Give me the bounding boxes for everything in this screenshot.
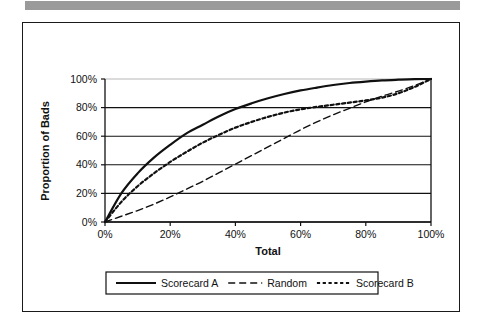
line-chart: 0%20%40%60%80%100% 0%20%40%60%80%100% To…: [23, 23, 458, 310]
x-tick-label: 80%: [355, 228, 376, 240]
y-tick-label: 40%: [76, 158, 97, 170]
x-tick-label: 0%: [97, 228, 112, 240]
x-tick-label: 40%: [225, 228, 246, 240]
y-tick-label: 100%: [70, 73, 97, 85]
x-tick-label: 20%: [160, 228, 181, 240]
y-axis-title: Proportion of Bads: [39, 101, 51, 201]
screenshot-page: 0%20%40%60%80%100% 0%20%40%60%80%100% To…: [0, 0, 483, 330]
y-tick-label: 0%: [82, 216, 97, 228]
legend-label: Scorecard A: [161, 277, 218, 289]
x-tick-label: 60%: [290, 228, 311, 240]
plot-background: [105, 79, 431, 222]
y-axis-tick-labels: 0%20%40%60%80%100%: [70, 73, 97, 228]
legend-label: Random: [267, 277, 307, 289]
legend-label: Scorecard B: [356, 277, 414, 289]
x-tick-label: 100%: [418, 228, 445, 240]
y-tick-label: 60%: [76, 130, 97, 142]
chart-figure-frame: 0%20%40%60%80%100% 0%20%40%60%80%100% To…: [22, 22, 460, 312]
chart-legend: Scorecard ARandomScorecard B: [106, 272, 414, 294]
top-gray-band: [25, 1, 460, 10]
y-tick-label: 80%: [76, 101, 97, 113]
x-axis-tick-labels: 0%20%40%60%80%100%: [97, 228, 444, 240]
x-axis-title: Total: [255, 245, 280, 257]
y-tick-label: 20%: [76, 187, 97, 199]
